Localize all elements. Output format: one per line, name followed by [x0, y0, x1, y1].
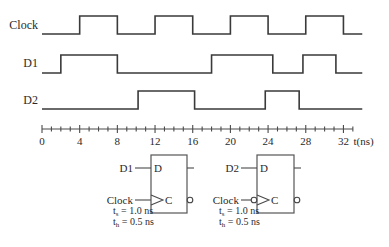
- signal-label: D1: [23, 56, 38, 70]
- tick-label: 4: [77, 135, 83, 147]
- signal-d1: D1: [23, 55, 362, 73]
- timing-diagram: ClockD1D2 048121620242832t(ns) D1DClockC…: [0, 0, 389, 247]
- clock-inversion-bubble-icon: [251, 197, 257, 203]
- signal-label: D2: [23, 93, 38, 107]
- flipflop-circuits: D1DClockCts = 1.0 nsth = 0.5 nsD2DClockC…: [107, 155, 301, 229]
- tick-label: 32: [338, 135, 349, 147]
- d-input-label: D2: [226, 162, 239, 174]
- tick-label: 16: [187, 135, 199, 147]
- tick-label: 0: [39, 135, 45, 147]
- th-value: = 0.5 ns: [119, 216, 154, 227]
- c-pin-label: C: [165, 194, 172, 206]
- tick-label: 28: [300, 135, 312, 147]
- d-input-label: D1: [120, 162, 133, 174]
- d-pin-label: D: [154, 162, 162, 174]
- tick-label: 12: [150, 135, 161, 147]
- c-pin-label: C: [271, 194, 278, 206]
- signal-d2: D2: [23, 91, 362, 109]
- hold-time-label: th = 0.5 ns: [113, 216, 154, 229]
- q-bar-bubble-icon: [187, 197, 193, 203]
- clock-edge-triangle-icon: [257, 195, 269, 205]
- ts-value: = 1.0 ns: [225, 205, 260, 216]
- tick-label: 20: [225, 135, 237, 147]
- ts-value: = 1.0 ns: [119, 205, 154, 216]
- d-pin-label: D: [260, 162, 268, 174]
- signal-clock: Clock: [9, 16, 362, 34]
- time-axis: 048121620242832t(ns): [39, 125, 374, 148]
- waveform-d2: [42, 91, 362, 109]
- clock-edge-triangle-icon: [151, 195, 163, 205]
- waveform-clock: [42, 16, 362, 34]
- th-value: = 0.5 ns: [225, 216, 260, 227]
- flipflop-ff1: D1DClockCts = 1.0 nsth = 0.5 ns: [107, 155, 194, 229]
- signal-label: Clock: [9, 18, 38, 32]
- tick-label: 8: [115, 135, 121, 147]
- axis-unit-label: t(ns): [353, 135, 374, 148]
- tick-label: 24: [263, 135, 275, 147]
- waveforms: ClockD1D2: [9, 16, 362, 109]
- q-bar-bubble-icon: [294, 197, 300, 203]
- waveform-d1: [42, 55, 362, 73]
- flipflop-ff2: D2DClockCts = 1.0 nsth = 0.5 ns: [213, 155, 301, 229]
- hold-time-label: th = 0.5 ns: [219, 216, 260, 229]
